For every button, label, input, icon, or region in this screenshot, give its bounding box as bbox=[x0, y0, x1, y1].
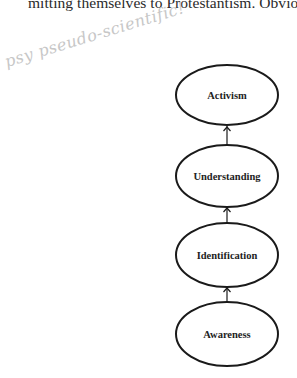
node-label-identification: Identification bbox=[197, 250, 258, 261]
arrow-up-icon bbox=[224, 207, 231, 223]
node-label-activism: Activism bbox=[207, 90, 247, 101]
arrow-up-icon bbox=[224, 287, 231, 302]
arrow-up-icon bbox=[224, 126, 231, 145]
node-label-awareness: Awareness bbox=[203, 329, 250, 340]
node-label-understanding: Understanding bbox=[193, 171, 261, 182]
flow-diagram: Activism Understanding Identification Aw… bbox=[0, 0, 297, 378]
